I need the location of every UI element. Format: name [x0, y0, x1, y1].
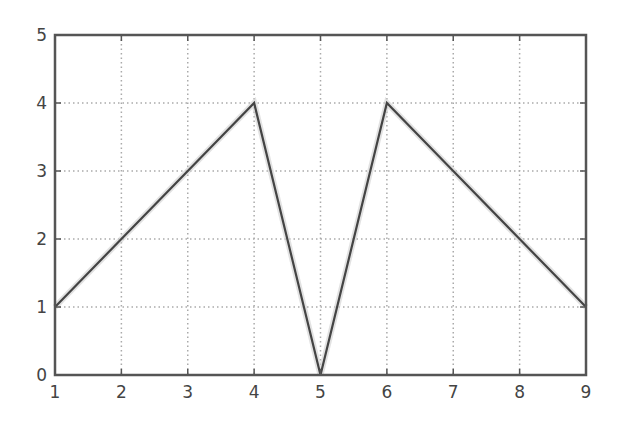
y-tick-label: 0 — [36, 365, 47, 385]
y-tick-label: 3 — [36, 161, 47, 181]
x-tick-label: 9 — [581, 382, 592, 402]
x-tick-label: 8 — [514, 382, 525, 402]
x-tick-label: 2 — [116, 382, 127, 402]
x-tick-label: 7 — [448, 382, 459, 402]
x-tick-label: 5 — [315, 382, 326, 402]
x-tick-label: 4 — [249, 382, 260, 402]
y-tick-label: 4 — [36, 93, 47, 113]
grid-lines — [55, 35, 586, 375]
y-tick-label: 2 — [36, 229, 47, 249]
y-tick-label: 5 — [36, 25, 47, 45]
x-tick-label: 1 — [50, 382, 61, 402]
x-tick-label: 3 — [182, 382, 193, 402]
x-tick-label: 6 — [381, 382, 392, 402]
y-tick-label: 1 — [36, 297, 47, 317]
line-chart: 123456789 012345 — [0, 0, 621, 422]
